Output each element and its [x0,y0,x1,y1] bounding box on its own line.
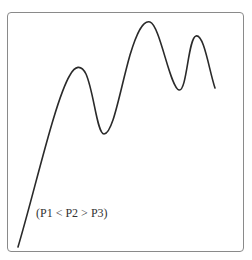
waveform-curve [0,0,252,260]
peak-relation-label: (P1 < P2 > P3) [36,206,108,221]
